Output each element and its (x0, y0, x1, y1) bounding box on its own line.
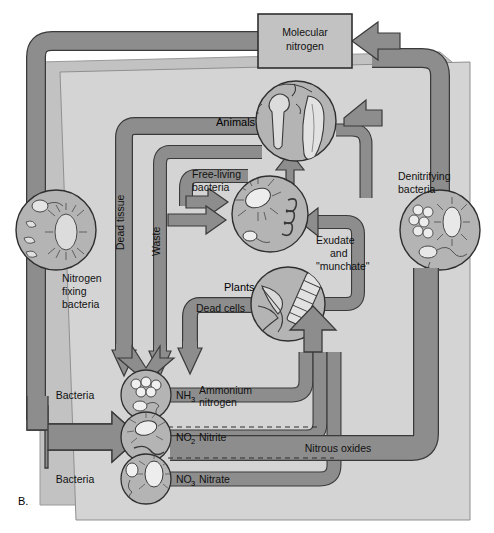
label-dead-cells: Dead cells (196, 302, 245, 314)
denitrifying-bacteria-circle[interactable] (400, 190, 480, 270)
free-living-bacteria-circle[interactable] (232, 176, 308, 252)
animals-node[interactable] (256, 81, 336, 161)
label-no3-formula: NO (176, 473, 192, 485)
molecular-nitrogen-node[interactable]: Molecular nitrogen (258, 14, 352, 68)
molecular-nitrogen-label-line2: nitrogen (286, 40, 324, 52)
label-nh3-formula: NH (176, 389, 191, 401)
label-free-living-line2: bacteria (192, 181, 230, 193)
label-dead-tissue: Dead tissue (114, 194, 126, 250)
nitrogen-cycle-diagram: Molecular nitrogen Dead tissue Waste Dea… (0, 0, 494, 533)
label-nitrite: Nitrite (199, 431, 227, 443)
molecular-nitrogen-label-line1: Molecular (282, 26, 328, 38)
free-living-bacteria-node[interactable] (232, 176, 308, 252)
label-nitrogen-fixing-line3: bacteria (62, 298, 100, 310)
nitrogen-fixing-bacteria-node[interactable] (16, 190, 96, 270)
label-ammonium-line2: nitrogen (199, 396, 237, 408)
label-nh3-subscript: 3 (191, 395, 195, 404)
label-plants: Plants (224, 281, 255, 293)
label-nitrate: Nitrate (199, 473, 230, 485)
label-nitrogen-fixing-line2: fixing (62, 285, 87, 297)
label-nitrous-oxides: Nitrous oxides (305, 442, 372, 454)
label-denitrifying-line1: Denitrifying (398, 170, 451, 182)
label-bacteria-ammonium: Bacteria (56, 389, 95, 401)
panel-label: B. (18, 495, 28, 507)
figure-canvas: Molecular nitrogen Dead tissue Waste Dea… (0, 0, 494, 533)
label-bacteria-nitrate: Bacteria (56, 473, 95, 485)
label-no2-subscript: 2 (191, 437, 195, 446)
label-no2-formula: NO (176, 431, 192, 443)
label-animals: Animals (216, 116, 256, 128)
label-denitrifying-line2: bacteria (398, 183, 436, 195)
label-nitrogen-fixing-line1: Nitrogen (62, 272, 102, 284)
label-free-living-line1: Free-living (192, 168, 241, 180)
label-waste: Waste (150, 226, 162, 256)
label-exudate-line3: "munchate" (316, 260, 370, 272)
label-exudate-line2: and (330, 247, 348, 259)
label-no3-subscript: 3 (191, 479, 195, 488)
label-ammonium-line1: Ammonium (199, 384, 252, 396)
label-exudate-line1: Exudate (316, 234, 355, 246)
